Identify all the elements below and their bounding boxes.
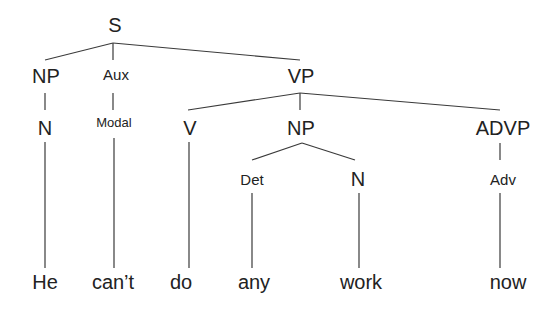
node-aux: Aux — [103, 66, 129, 83]
node-np-object: NP — [287, 117, 315, 139]
edge-vp-v — [188, 93, 300, 110]
node-advp: ADVP — [476, 117, 530, 139]
node-v: V — [183, 117, 197, 139]
word-he: He — [32, 271, 58, 293]
node-modal: Modal — [96, 115, 132, 130]
edge-s-vp — [113, 43, 300, 60]
tree-nodes: S NP Aux VP N Modal V NP ADVP Det N Adv — [32, 14, 530, 190]
syntax-tree-diagram: S NP Aux VP N Modal V NP ADVP Det N Adv … — [0, 0, 558, 309]
edge-np-n-obj — [302, 143, 355, 160]
word-work: work — [339, 271, 383, 293]
word-cant: can’t — [92, 271, 135, 293]
tree-leaves: He can’t do any work now — [32, 271, 527, 293]
node-np-subject: NP — [32, 65, 60, 87]
node-vp: VP — [288, 65, 315, 87]
node-n-subject: N — [38, 117, 52, 139]
word-any: any — [238, 271, 270, 293]
word-do: do — [170, 271, 192, 293]
edge-s-np — [45, 43, 113, 60]
node-adv: Adv — [490, 171, 516, 188]
edge-np-det — [252, 143, 302, 160]
node-n-object: N — [351, 168, 365, 190]
edge-vp-advp — [300, 93, 500, 110]
node-s: S — [108, 14, 121, 36]
node-det: Det — [240, 171, 264, 188]
word-now: now — [490, 271, 527, 293]
